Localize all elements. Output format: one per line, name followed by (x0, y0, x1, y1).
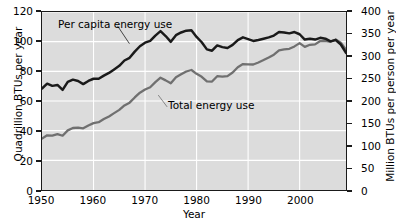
x-axis-tick-label: 1960 (79, 195, 106, 206)
y-axis-left-tick-mark (36, 130, 41, 131)
y-axis-right-tick-mark (347, 100, 352, 101)
annotation-leader-lines (118, 26, 168, 107)
y-axis-right-tick-label: 400 (361, 6, 381, 17)
x-axis-title: Year (41, 208, 347, 220)
y-axis-right-tick-mark (347, 10, 352, 11)
y-axis-right-tick-mark (347, 55, 352, 56)
y-axis-left-tick-mark (36, 40, 41, 41)
y-axis-left-tick-mark (36, 70, 41, 71)
x-axis-tick-label: 1950 (28, 195, 55, 206)
y-axis-right-tick-mark (347, 168, 352, 169)
series-label-per-capita: Per capita energy use (58, 19, 172, 30)
y-axis-left-title: Quadrillion BTUs per year (12, 14, 24, 174)
x-axis-tick-label: 1980 (183, 195, 210, 206)
y-axis-right-tick-label: 150 (361, 118, 381, 129)
y-axis-right-tick-label: 250 (361, 73, 381, 84)
y-axis-right-tick-mark (347, 190, 352, 191)
y-axis-right-tick-label: 350 (361, 28, 381, 39)
x-axis-ticks: 195019601970198019902000 (0, 193, 392, 209)
y-axis-left-tick-mark (36, 10, 41, 11)
y-axis-left-tick-mark (36, 190, 41, 191)
y-axis-right-tick-mark (347, 33, 352, 34)
series-label-total: Total energy use (168, 100, 254, 111)
series-line-2 (42, 30, 346, 90)
y-axis-right-tick-label: 300 (361, 51, 381, 62)
series-lines (42, 30, 346, 138)
x-axis-tick-label: 2000 (287, 195, 314, 206)
plot-area: Per capita energy use Total energy use (41, 11, 347, 191)
x-axis-tick-label: 1970 (131, 195, 158, 206)
y-axis-left-tick-mark (36, 100, 41, 101)
y-axis-right-tick-mark (347, 78, 352, 79)
y-axis-right-ticks: 050100150200250300350400 (352, 0, 382, 221)
x-axis-tick-label: 1990 (235, 195, 262, 206)
y-axis-right-tick-label: 100 (361, 141, 381, 152)
y-axis-left-tick-mark (36, 160, 41, 161)
y-axis-right-tick-mark (347, 123, 352, 124)
y-axis-right-title: Million BTUs per person per year (384, 6, 396, 186)
y-axis-right-tick-mark (347, 145, 352, 146)
y-axis-right-tick-label: 200 (361, 96, 381, 107)
series-line-1 (42, 39, 346, 138)
y-axis-right-tick-label: 50 (361, 163, 374, 174)
